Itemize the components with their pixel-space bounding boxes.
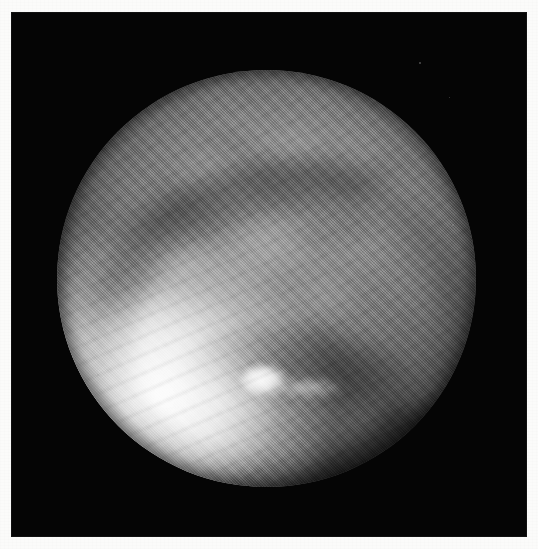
halftone-screen-layer <box>57 70 476 487</box>
dust-speck <box>419 62 421 64</box>
photographic-plate <box>11 12 527 537</box>
dust-speck <box>97 374 99 376</box>
spherical-body-disc <box>57 70 476 487</box>
dust-speck <box>449 97 450 98</box>
dust-speck <box>452 224 454 226</box>
